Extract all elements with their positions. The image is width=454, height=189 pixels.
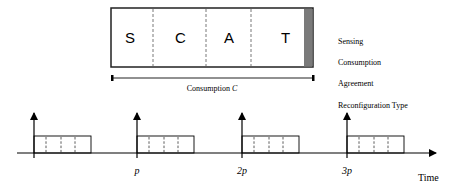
legend: Sensing Consumption Agreement Reconfigur…: [338, 37, 408, 110]
frame-block: [137, 136, 194, 153]
timeline: p2p3p: [17, 113, 436, 176]
frame-block: [347, 136, 404, 153]
frame-block: [34, 136, 91, 153]
frame-block: [242, 136, 299, 153]
consumption-span-label: Consumption C: [187, 84, 238, 93]
period-tick-label: 3p: [341, 165, 352, 176]
svg-text:Consumption: Consumption: [338, 58, 381, 67]
frame-tail-band: [304, 9, 313, 67]
frame-box: S C A T: [111, 8, 313, 67]
svg-text:Agreement: Agreement: [338, 79, 374, 88]
segment-label-c: C: [175, 29, 186, 46]
svg-text:Reconfiguration Type: Reconfiguration Type: [338, 101, 408, 110]
scat-frame-diagram: S C A T Consumption C Sensing Consumptio…: [0, 0, 454, 189]
svg-text:Sensing: Sensing: [338, 37, 363, 46]
segment-label-s: S: [125, 29, 135, 46]
segment-label-a: A: [224, 29, 234, 46]
period-tick-label: 2p: [237, 165, 247, 176]
time-axis-label: Time: [418, 172, 439, 183]
period-tick-label: p: [134, 165, 140, 176]
segment-label-t: T: [281, 29, 290, 46]
